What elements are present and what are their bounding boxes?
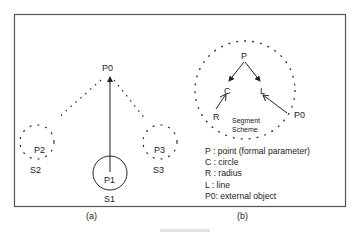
legend-item-p0: P0: external object [205, 191, 310, 202]
legend-item-c: C : circle [205, 157, 310, 168]
legend-item-r: R : radius [205, 168, 310, 179]
legend: P : point (formal parameter) C : circle … [205, 146, 310, 202]
label-r: R [213, 112, 220, 122]
legend-item-p: P : point (formal parameter) [205, 146, 310, 157]
clipped-caption-mark [160, 229, 210, 232]
label-s1: S1 [104, 194, 115, 204]
label-p1: P1 [104, 175, 115, 185]
label-p0: P0 [102, 63, 113, 73]
dotted-link-p0-s3 [114, 80, 146, 120]
arrow-r-c [216, 94, 226, 109]
arrow-p0-l [263, 95, 287, 113]
caption-a: (a) [86, 211, 97, 221]
arrow-p-l [245, 62, 260, 81]
label-s3: S3 [153, 165, 164, 175]
segment-scheme-label-line2: Scheme [232, 126, 258, 134]
label-p0-b: P0 [294, 110, 305, 120]
label-c: C [224, 86, 231, 96]
caption-b: (b) [237, 211, 248, 221]
dotted-link-p0-s2 [58, 80, 101, 118]
label-p3: P3 [154, 145, 165, 155]
label-p2: P2 [34, 145, 45, 155]
segment-scheme-label-line1: Segment [232, 117, 260, 125]
label-p: P [241, 51, 247, 61]
arrow-p-c [229, 62, 244, 81]
legend-item-l: L : line [205, 180, 310, 191]
label-s2: S2 [30, 165, 41, 175]
label-l: L [260, 86, 265, 96]
